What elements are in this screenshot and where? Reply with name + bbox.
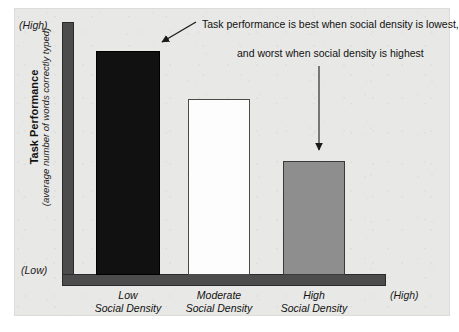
annotation-line-1: Task performance is best when social den… [202,18,459,30]
y-axis-title: Task Performance (average number of word… [23,17,57,217]
y-axis-title-main: Task Performance [28,70,41,165]
bar-low-social-density [96,51,160,275]
annotation-line-2: and worst when social density is highest [237,47,424,59]
x-tick-label-high-line1: High [254,289,374,302]
y-axis-title-sub: (average number of words correctly typed… [41,28,52,206]
bar-moderate-social-density [188,99,250,275]
x-axis [62,274,386,286]
y-axis [62,22,74,280]
y-axis-low-label: (Low) [21,264,47,276]
bar-high-social-density [283,161,345,275]
x-axis-high-label: (High) [390,289,419,301]
x-tick-label-high-line2: Social Density [254,302,374,315]
x-tick-label-high: High Social Density [254,289,374,315]
